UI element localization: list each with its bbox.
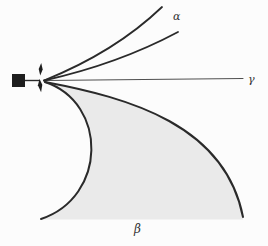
alpha-label: α [173, 10, 181, 23]
radioactive-source [12, 74, 25, 87]
radiation-paths-diagram: α γ β [0, 0, 268, 246]
gamma-label: γ [248, 73, 255, 86]
beta-label: β [133, 222, 141, 236]
